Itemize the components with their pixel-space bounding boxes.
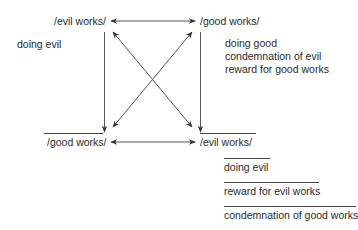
negation-bar-annotation-1 <box>224 158 270 159</box>
corner-top-left-label: /evil works/ <box>54 15 106 27</box>
annotation-bottom-right-item-2: reward for evil works <box>224 185 320 197</box>
annotation-item: doing evil <box>17 38 61 51</box>
annotation-bottom-right-item-3: condemnation of good works <box>224 209 358 221</box>
negation-bar-bottom-left <box>44 133 103 134</box>
annotation-item: reward for good works <box>225 63 329 76</box>
corner-bottom-left-label: /good works/ <box>47 136 107 148</box>
negation-bar-annotation-2 <box>224 182 319 183</box>
negation-bar-bottom-right <box>200 133 256 134</box>
annotation-top-right: doing good condemnation of evil reward f… <box>225 37 329 76</box>
corner-top-right-label: /good works/ <box>200 15 260 27</box>
corner-bottom-right-label: /evil works/ <box>200 136 252 148</box>
negation-bar-annotation-3 <box>224 206 356 207</box>
annotation-top-left: doing evil <box>17 38 61 51</box>
annotation-item: condemnation of evil <box>225 50 329 63</box>
annotation-item: doing good <box>225 37 329 50</box>
annotation-bottom-right-item-1: doing evil <box>224 161 268 173</box>
